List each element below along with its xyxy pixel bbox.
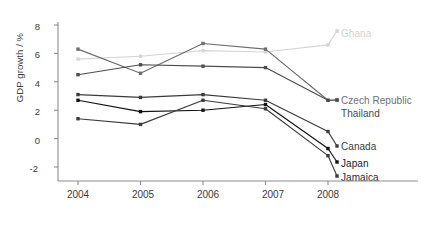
chart-figure: GDP growth / % 8 6 4 2 0 -2 2004 2005 20… [0,0,428,227]
chart-plot-area [0,0,428,227]
